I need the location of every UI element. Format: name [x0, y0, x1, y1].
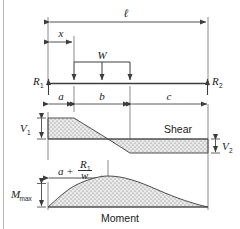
uniform-load-group: W — [74, 49, 130, 80]
span-label: ℓ — [124, 7, 129, 19]
shear-diagram-group: Shear V 1 V 2 — [20, 104, 233, 160]
span-dimension: ℓ — [48, 7, 208, 86]
v2-subscript: 2 — [229, 147, 233, 154]
moment-diagram-group: M max Moment — [10, 160, 208, 224]
amax-formula-denominator: w — [81, 169, 89, 181]
beam-diagram-figure: ℓ x W R 1 R 2 — [0, 0, 240, 229]
reaction-left-subscript: 1 — [40, 82, 44, 89]
load-label: W — [97, 49, 107, 61]
reaction-right-label: R — [211, 75, 219, 87]
x-label: x — [58, 27, 64, 39]
dimension-a-label: a — [58, 90, 64, 102]
reaction-right-subscript: 2 — [219, 82, 223, 89]
amax-formula-lead: a + — [58, 165, 74, 177]
x-dimension: x — [50, 27, 74, 62]
mmax-dimension: M max — [10, 184, 46, 208]
v1-dimension: V 1 — [20, 118, 46, 139]
moment-diagram-label: Moment — [101, 212, 139, 224]
dimension-c-label: c — [167, 90, 172, 102]
v1-subscript: 1 — [27, 129, 31, 136]
dimension-b-label: b — [99, 90, 105, 102]
moment-area — [48, 176, 208, 207]
beam-diagram-svg: ℓ x W R 1 R 2 — [0, 0, 240, 229]
shear-diagram-label: Shear — [164, 123, 193, 135]
mmax-subscript: max — [20, 195, 33, 202]
reaction-left-label: R — [32, 75, 40, 87]
shear-positive-area — [48, 118, 108, 139]
v2-dimension: V 2 — [211, 139, 233, 154]
shear-negative-area — [108, 139, 208, 153]
